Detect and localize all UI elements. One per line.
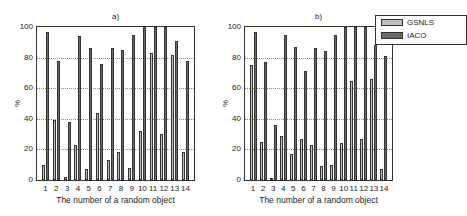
- bar-iaco-13: [374, 45, 377, 180]
- bar-iaco-8: [121, 50, 124, 180]
- y-tick-label: 80: [13, 53, 33, 62]
- plot-area: [36, 26, 195, 181]
- bar-iaco-12: [364, 27, 367, 180]
- legend-swatch-gsnls: [381, 19, 403, 26]
- bar-iaco-5: [89, 48, 92, 180]
- legend-label-gsnls: GSNLS: [407, 18, 434, 27]
- y-tick-label: 0: [13, 175, 33, 184]
- bar-gsnls-5: [290, 154, 293, 180]
- bar-iaco-4: [284, 35, 287, 180]
- bar-gsnls-11: [150, 53, 153, 180]
- bar-iaco-14: [186, 61, 189, 180]
- bar-iaco-1: [46, 32, 49, 180]
- bar-iaco-6: [304, 71, 307, 180]
- y-axis-label: %: [13, 99, 22, 106]
- bar-iaco-13: [175, 41, 178, 180]
- bar-gsnls-14: [380, 169, 383, 180]
- bar-iaco-11: [354, 27, 357, 180]
- legend-label-iaco: IACO: [407, 31, 427, 40]
- bar-iaco-5: [294, 47, 297, 180]
- bar-gsnls-4: [74, 145, 77, 180]
- bar-gsnls-14: [182, 152, 185, 180]
- bar-iaco-2: [264, 62, 267, 180]
- bar-gsnls-3: [64, 177, 67, 180]
- plot-area: [244, 26, 393, 181]
- bar-gsnls-1: [42, 165, 45, 180]
- bar-gsnls-4: [280, 136, 283, 180]
- bar-gsnls-9: [330, 165, 333, 180]
- y-tick-label: 60: [13, 83, 33, 92]
- bar-gsnls-1: [250, 65, 253, 180]
- bar-gsnls-13: [370, 79, 373, 180]
- bar-iaco-10: [344, 27, 347, 180]
- bar-iaco-10: [143, 27, 146, 180]
- bar-gsnls-7: [107, 160, 110, 180]
- bar-gsnls-6: [96, 113, 99, 180]
- bar-gsnls-13: [171, 55, 174, 180]
- y-tick-label: 100: [221, 22, 241, 31]
- bar-iaco-12: [164, 27, 167, 180]
- bar-iaco-3: [274, 125, 277, 180]
- x-axis-label: The number of a random object: [234, 195, 403, 205]
- y-axis-label: %: [221, 99, 230, 106]
- bar-iaco-6: [100, 64, 103, 180]
- gridline: [245, 58, 392, 59]
- chart-title: a): [36, 12, 195, 21]
- bar-iaco-2: [57, 61, 60, 180]
- legend: GSNLS IACO: [375, 15, 467, 45]
- bar-gsnls-7: [310, 145, 313, 180]
- y-tick-label: 60: [221, 83, 241, 92]
- bar-gsnls-10: [340, 143, 343, 180]
- y-tick-label: 20: [221, 144, 241, 153]
- y-tick-label: 80: [221, 53, 241, 62]
- x-tick-label: 14: [179, 184, 191, 193]
- bar-iaco-4: [78, 36, 81, 180]
- bar-gsnls-2: [260, 142, 263, 180]
- bar-iaco-14: [384, 56, 387, 180]
- y-tick-label: 0: [221, 175, 241, 184]
- legend-swatch-iaco: [381, 32, 403, 39]
- bar-gsnls-10: [139, 131, 142, 180]
- bar-iaco-9: [334, 35, 337, 180]
- legend-item-iaco: IACO: [376, 29, 466, 42]
- bar-iaco-8: [324, 51, 327, 180]
- bar-iaco-7: [111, 48, 114, 180]
- bar-iaco-1: [254, 32, 257, 180]
- bar-gsnls-5: [85, 169, 88, 180]
- bar-gsnls-8: [320, 166, 323, 180]
- y-tick-label: 40: [13, 114, 33, 123]
- bar-iaco-3: [68, 122, 71, 180]
- bar-gsnls-8: [117, 152, 120, 180]
- y-tick-label: 20: [13, 144, 33, 153]
- bar-gsnls-6: [300, 139, 303, 180]
- bar-gsnls-3: [270, 178, 273, 180]
- legend-item-gsnls: GSNLS: [376, 16, 466, 29]
- bar-iaco-7: [314, 48, 317, 180]
- bar-iaco-9: [132, 35, 135, 180]
- y-tick-label: 40: [221, 114, 241, 123]
- bar-gsnls-12: [360, 139, 363, 180]
- chart-title: b): [244, 12, 393, 21]
- bar-iaco-11: [154, 27, 157, 180]
- y-tick-label: 100: [13, 22, 33, 31]
- x-tick-label: 14: [378, 184, 390, 193]
- bar-gsnls-12: [160, 134, 163, 180]
- x-axis-label: The number of a random object: [26, 195, 205, 205]
- bar-gsnls-11: [350, 81, 353, 180]
- bar-gsnls-2: [53, 120, 56, 180]
- bar-gsnls-9: [128, 168, 131, 180]
